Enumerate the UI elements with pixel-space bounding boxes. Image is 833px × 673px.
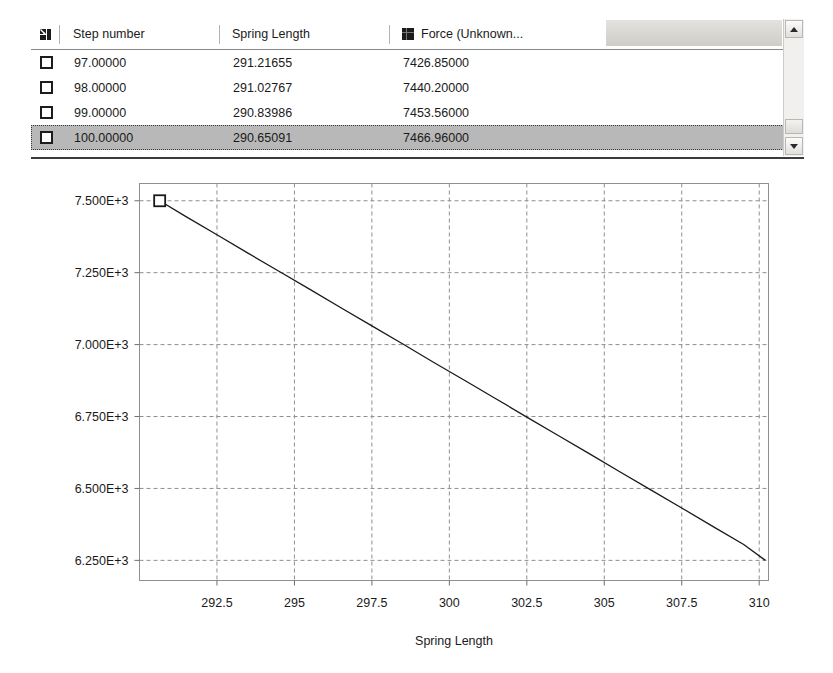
x-axis-tick-label: 295 xyxy=(284,596,305,610)
series-markers[interactable] xyxy=(154,195,165,206)
cell-spring-length: 291.02767 xyxy=(220,81,390,95)
column-header-spring-length[interactable]: Spring Length xyxy=(219,19,389,50)
x-axis-tick-label: 307.5 xyxy=(666,596,697,610)
header-empty-filler xyxy=(606,20,782,46)
series-color-swatch-icon[interactable] xyxy=(402,28,414,40)
x-axis-tick-label: 297.5 xyxy=(356,596,387,610)
row-select-cell[interactable] xyxy=(32,81,60,94)
cell-spring-length: 290.65091 xyxy=(220,131,390,145)
x-axis-tick-label: 302.5 xyxy=(511,596,542,610)
row-select-cell[interactable] xyxy=(32,131,60,144)
y-axis-tick-label: 6.750E+3 xyxy=(75,410,129,424)
table-body[interactable]: 97.00000 291.21655 7426.85000 98.00000 2… xyxy=(31,50,804,154)
column-header-label: Spring Length xyxy=(232,27,310,41)
cell-force: 7466.96000 xyxy=(390,131,590,145)
x-axis-tick-label: 305 xyxy=(594,596,615,610)
row-checkbox[interactable] xyxy=(40,81,53,94)
table-row[interactable]: 97.00000 291.21655 7426.85000 xyxy=(31,50,804,75)
cell-step-number: 98.00000 xyxy=(60,81,220,95)
y-axis-tick-label: 6.500E+3 xyxy=(75,482,129,496)
cell-force: 7426.85000 xyxy=(390,56,590,70)
table-row[interactable]: 99.00000 290.83986 7453.56000 xyxy=(31,100,804,125)
column-header-label: Force (Unknown... xyxy=(421,27,523,41)
data-table[interactable]: Step number Spring Length Force (Unknown… xyxy=(31,19,804,156)
force-vs-spring-length-chart[interactable]: 7.500E+37.250E+37.000E+36.750E+36.500E+3… xyxy=(0,170,833,673)
x-tick-marks xyxy=(217,581,759,586)
header-divider xyxy=(389,25,390,44)
x-axis-tick-label: 310 xyxy=(749,596,770,610)
select-all-icon[interactable] xyxy=(38,27,53,42)
x-axis-tick-label: 292.5 xyxy=(201,596,232,610)
x-axis-tick-label: 300 xyxy=(439,596,460,610)
scrollbar-thumb[interactable] xyxy=(785,119,803,134)
y-axis-tick-label: 7.250E+3 xyxy=(75,266,129,280)
cell-force: 7453.56000 xyxy=(390,106,590,120)
table-row[interactable]: 98.00000 291.02767 7440.20000 xyxy=(31,75,804,100)
y-axis-tick-label: 7.500E+3 xyxy=(75,194,129,208)
scroll-down-button[interactable] xyxy=(785,137,803,155)
y-axis-tick-label: 6.250E+3 xyxy=(75,554,129,568)
data-point-marker[interactable] xyxy=(154,195,165,206)
scroll-up-button[interactable] xyxy=(785,20,803,38)
select-all-header-cell[interactable] xyxy=(31,19,59,50)
table-vertical-scrollbar[interactable] xyxy=(783,19,804,156)
chart-canvas: 7.500E+37.250E+37.000E+36.750E+36.500E+3… xyxy=(0,170,833,673)
table-header-row: Step number Spring Length Force (Unknown… xyxy=(31,19,804,50)
x-gridlines xyxy=(217,184,759,581)
y-tick-marks xyxy=(135,201,140,561)
cell-spring-length: 291.21655 xyxy=(220,56,390,70)
plot-frame xyxy=(140,184,769,581)
cell-force: 7440.20000 xyxy=(390,81,590,95)
column-header-label: Step number xyxy=(73,27,145,41)
cell-step-number: 100.00000 xyxy=(60,131,220,145)
header-divider xyxy=(59,25,60,44)
cell-step-number: 99.00000 xyxy=(60,106,220,120)
table-row-selected[interactable]: 100.00000 290.65091 7466.96000 xyxy=(31,125,804,150)
row-select-cell[interactable] xyxy=(32,106,60,119)
cell-spring-length: 290.83986 xyxy=(220,106,390,120)
x-axis-tick-labels: 292.5295297.5300302.5305307.5310 xyxy=(201,596,769,610)
y-gridlines xyxy=(140,201,769,561)
y-axis-tick-labels: 7.500E+37.250E+37.000E+36.750E+36.500E+3… xyxy=(75,194,129,568)
row-checkbox[interactable] xyxy=(40,131,53,144)
chevron-down-icon xyxy=(790,144,798,149)
header-divider xyxy=(219,25,220,44)
grid-bottom-divider xyxy=(31,157,804,159)
cell-step-number: 97.00000 xyxy=(60,56,220,70)
x-axis-title: Spring Length xyxy=(415,634,493,648)
column-header-force[interactable]: Force (Unknown... xyxy=(389,19,589,50)
row-checkbox[interactable] xyxy=(40,106,53,119)
row-checkbox[interactable] xyxy=(40,56,53,69)
column-header-step-number[interactable]: Step number xyxy=(59,19,219,50)
row-select-cell[interactable] xyxy=(32,56,60,69)
y-axis-tick-label: 7.000E+3 xyxy=(75,338,129,352)
series-line-force[interactable] xyxy=(160,201,766,561)
chevron-up-icon xyxy=(790,27,798,32)
